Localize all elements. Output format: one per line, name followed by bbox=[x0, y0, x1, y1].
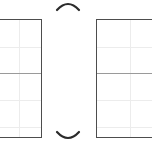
left-panel-gridline-vertical bbox=[19, 20, 20, 137]
right-panel-gridline-horizontal-mid bbox=[97, 100, 152, 101]
left-panel-gridline-horizontal-top bbox=[0, 47, 41, 48]
right-panel-divider bbox=[97, 73, 152, 74]
right-panel-gridline-vertical bbox=[130, 20, 131, 137]
right-panel[interactable] bbox=[96, 19, 152, 138]
bottom-arc-path bbox=[57, 132, 79, 138]
left-panel-gridline-horizontal-mid bbox=[0, 100, 41, 101]
right-panel-gridline-horizontal-bottom bbox=[97, 127, 152, 128]
right-panel-gridline-horizontal-top bbox=[97, 47, 152, 48]
diagram-canvas bbox=[0, 0, 152, 152]
left-panel-divider bbox=[0, 73, 41, 74]
left-panel[interactable] bbox=[0, 19, 42, 138]
top-arc-icon bbox=[56, 0, 80, 11]
bottom-arc-icon bbox=[56, 131, 80, 143]
left-panel-gridline-horizontal-bottom bbox=[0, 127, 41, 128]
top-arc-path bbox=[57, 4, 79, 10]
